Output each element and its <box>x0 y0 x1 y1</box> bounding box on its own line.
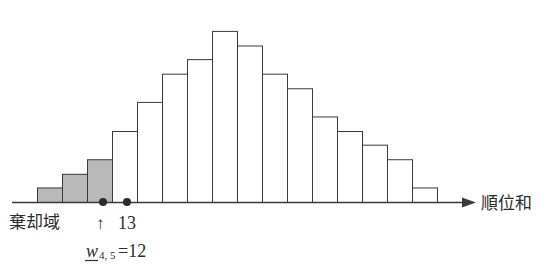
histogram-bar <box>413 188 438 203</box>
baseline-marker-dot <box>123 198 131 206</box>
histogram-bar <box>288 89 313 203</box>
histogram-bar <box>138 102 163 202</box>
histogram-bar <box>238 46 263 203</box>
axis-arrow-head <box>462 198 476 208</box>
critical-value-label: 13 <box>118 213 136 233</box>
histogram-bar <box>363 145 388 202</box>
up-arrow-icon: ↑ <box>96 214 105 233</box>
histogram-bar <box>188 60 213 203</box>
histogram-bar <box>38 188 63 203</box>
x-axis-label: 順位和 <box>481 194 532 213</box>
histogram-bar <box>213 31 238 202</box>
histogram-bar <box>88 160 113 203</box>
formula-symbol: w <box>86 241 98 261</box>
formula-equals-value: =12 <box>118 241 146 261</box>
formula-w-lower-bound: w 4, 5 =12 <box>85 241 146 261</box>
formula-subscript: 4, 5 <box>99 249 116 261</box>
histogram-bar <box>63 174 88 202</box>
histogram-svg: 順位和 棄却域 ↑ 13 w 4, 5 =12 <box>0 0 559 279</box>
histogram-bar <box>338 132 363 203</box>
histogram-bar <box>263 74 288 202</box>
baseline-marker-dot <box>99 198 107 206</box>
rejection-region-label: 棄却域 <box>9 213 60 232</box>
histogram-bars-group <box>38 31 438 202</box>
rank-sum-distribution-figure: 順位和 棄却域 ↑ 13 w 4, 5 =12 <box>0 0 559 279</box>
histogram-bar <box>163 74 188 202</box>
histogram-bar <box>313 117 338 203</box>
histogram-bar <box>113 132 138 203</box>
histogram-bar <box>388 160 413 203</box>
